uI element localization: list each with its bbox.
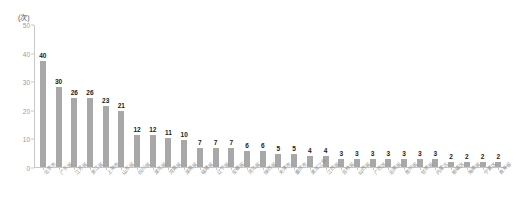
bar-rect[interactable]	[56, 87, 62, 167]
bar-rect[interactable]	[118, 111, 124, 167]
x-category-slot: 湖北省	[145, 170, 161, 215]
y-tick-label: 0	[26, 165, 30, 172]
bar-item[interactable]: 6	[255, 25, 271, 167]
bar-value-label: 26	[71, 90, 78, 97]
y-tick-mark	[31, 25, 34, 26]
x-category-slot: 内蒙古	[428, 170, 444, 215]
bar-item[interactable]: 2	[490, 25, 506, 167]
bar-value-label: 2	[481, 154, 485, 161]
bar-value-label: 2	[496, 154, 500, 161]
bar-item[interactable]: 6	[239, 25, 255, 167]
x-category-slot: 河南省	[161, 170, 177, 215]
bar-chart: (次) 01020304050 403026262321121211107776…	[0, 0, 524, 215]
x-category-slot: 湖南省	[176, 170, 192, 215]
bar-item[interactable]: 3	[349, 25, 365, 167]
bar-value-label: 26	[86, 90, 93, 97]
bar-item[interactable]: 21	[114, 25, 130, 167]
bar-rect[interactable]	[354, 159, 360, 167]
bar-item[interactable]: 5	[286, 25, 302, 167]
bar-item[interactable]: 3	[428, 25, 444, 167]
bar-value-label: 21	[118, 103, 125, 110]
x-category-slot: 吉林省	[333, 170, 349, 215]
bar-rect[interactable]	[181, 140, 187, 167]
bar-rect[interactable]	[150, 135, 156, 167]
bar-item[interactable]: 7	[223, 25, 239, 167]
bar-item[interactable]: 12	[129, 25, 145, 167]
bar-value-label: 11	[165, 130, 172, 137]
y-tick-label: 20	[23, 107, 30, 114]
x-category-slot: 河北省	[239, 170, 255, 215]
bar-item[interactable]: 10	[176, 25, 192, 167]
bar-item[interactable]: 2	[443, 25, 459, 167]
bar-value-label: 3	[418, 151, 422, 158]
y-tick-mark	[31, 110, 34, 111]
x-category-slot: 宁夏区	[475, 170, 491, 215]
bar-item[interactable]: 26	[66, 25, 82, 167]
bar-rect[interactable]	[432, 159, 438, 167]
bar-item[interactable]: 23	[98, 25, 114, 167]
x-category-slot: 四川省	[129, 170, 145, 215]
bar-item[interactable]: 4	[318, 25, 334, 167]
bar-item[interactable]: 3	[365, 25, 381, 167]
bar-rect[interactable]	[71, 98, 77, 167]
y-tick-mark	[31, 139, 34, 140]
bar-item[interactable]: 12	[145, 25, 161, 167]
x-category-slot: 陕西省	[255, 170, 271, 215]
x-category-slot: 北京市	[35, 170, 51, 215]
bar-item[interactable]: 2	[475, 25, 491, 167]
x-category-slot: 安徽省	[223, 170, 239, 215]
bar-rect[interactable]	[165, 138, 171, 167]
x-category-slot: 浙江省	[82, 170, 98, 215]
bar-item[interactable]: 26	[82, 25, 98, 167]
bar-value-label: 30	[55, 79, 62, 86]
x-category-slot: 江苏省	[66, 170, 82, 215]
x-category-slot: 上海市	[98, 170, 114, 215]
y-tick-mark	[31, 53, 34, 54]
bar-item[interactable]: 3	[412, 25, 428, 167]
bar-series: 4030262623211212111077766554433333332222	[35, 25, 506, 167]
bar-rect[interactable]	[134, 135, 140, 167]
x-category-slot: 青海省	[490, 170, 506, 215]
bar-value-label: 3	[387, 151, 391, 158]
y-axis-unit-label: (次)	[18, 12, 30, 22]
bar-item[interactable]: 7	[208, 25, 224, 167]
bar-rect[interactable]	[370, 159, 376, 167]
bar-value-label: 3	[434, 151, 438, 158]
bar-item[interactable]: 30	[51, 25, 67, 167]
bar-item[interactable]: 3	[396, 25, 412, 167]
bar-item[interactable]: 7	[192, 25, 208, 167]
bar-value-label: 12	[149, 127, 156, 134]
bar-value-label: 3	[402, 151, 406, 158]
bar-item[interactable]: 3	[380, 25, 396, 167]
x-axis-category-labels: 北京市广东省江苏省浙江省上海市山东省四川省湖北省河南省湖南省福建省辽宁省安徽省河…	[35, 170, 506, 215]
bar-item[interactable]: 40	[35, 25, 51, 167]
x-category-slot: 山西省	[349, 170, 365, 215]
bar-item[interactable]: 2	[459, 25, 475, 167]
bar-value-label: 2	[465, 154, 469, 161]
bar-value-label: 40	[39, 53, 46, 60]
bar-value-label: 7	[229, 140, 233, 147]
bar-value-label: 23	[102, 98, 109, 105]
bar-item[interactable]: 3	[333, 25, 349, 167]
bar-item[interactable]: 5	[271, 25, 287, 167]
x-category-slot: 天津市	[271, 170, 287, 215]
bar-value-label: 5	[292, 146, 296, 153]
bar-value-label: 3	[355, 151, 359, 158]
bar-rect[interactable]	[401, 159, 407, 167]
bar-rect[interactable]	[40, 61, 46, 167]
x-category-slot: 辽宁省	[208, 170, 224, 215]
bar-rect[interactable]	[417, 159, 423, 167]
bar-rect[interactable]	[87, 98, 93, 167]
bar-value-label: 4	[308, 148, 312, 155]
x-category-slot: 黑龙江省	[302, 170, 318, 215]
x-category-slot: 江西省	[318, 170, 334, 215]
bar-rect[interactable]	[103, 106, 109, 167]
bar-value-label: 10	[181, 132, 188, 139]
bar-rect[interactable]	[307, 156, 313, 167]
y-tick-mark	[31, 82, 34, 83]
x-category-slot: 贵州省	[396, 170, 412, 215]
bar-item[interactable]: 11	[161, 25, 177, 167]
bar-value-label: 12	[133, 127, 140, 134]
bar-item[interactable]: 4	[302, 25, 318, 167]
x-category-slot: 广西区	[365, 170, 381, 215]
